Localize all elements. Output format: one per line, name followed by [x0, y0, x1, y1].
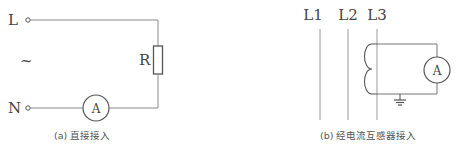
terminal-n-label: N	[8, 99, 21, 117]
resistor-label: R	[139, 51, 151, 69]
circuit-diagrams: L R ~ N A (a) 直接接入 L1 L2 L3 A	[0, 0, 456, 151]
ammeter-b-label: A	[432, 64, 442, 78]
caption-b: (b) 经电流互感器接入	[320, 130, 416, 141]
resistor-icon	[154, 46, 163, 74]
ammeter-a-label: A	[91, 102, 101, 116]
ac-source-symbol: ~	[20, 52, 33, 70]
caption-a: (a) 直接接入	[54, 130, 110, 141]
phase-l3-label: L3	[367, 6, 387, 24]
phase-l2-label: L2	[338, 6, 358, 24]
phase-l1-label: L1	[303, 6, 323, 24]
terminal-l-label: L	[8, 11, 18, 29]
ground-icon	[394, 94, 406, 105]
terminal-l-icon	[26, 18, 30, 22]
diagram-b-current-transformer: L1 L2 L3 A (b) 经电流互感器接入	[303, 6, 450, 141]
diagram-a-direct-connection: L R ~ N A (a) 直接接入	[8, 11, 163, 141]
terminal-n-icon	[26, 106, 30, 110]
current-transformer-coil-icon	[365, 44, 378, 94]
